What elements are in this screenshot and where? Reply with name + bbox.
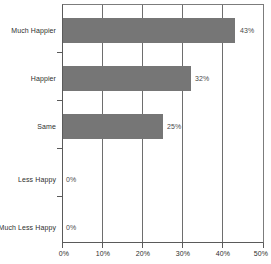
x-axis-tick-label-50: 50%	[254, 250, 268, 257]
x-axis-ticks	[62, 243, 265, 249]
value-label-much-happier: 43%	[240, 27, 254, 34]
x-axis-tick-40	[222, 243, 223, 248]
x-axis-tick-label-20: 20%	[136, 250, 150, 257]
y-axis-label-much-less-happy: Much Less Happy	[0, 224, 56, 231]
x-axis-tick-30	[182, 243, 183, 248]
x-axis-tick-labels: 0% 10% 20% 30% 40% 50%	[0, 250, 271, 262]
y-axis-category-labels: Much Happier Happier Same Less Happy Muc…	[0, 0, 58, 264]
y-axis-label-much-happier: Much Happier	[11, 27, 56, 34]
value-label-happier: 32%	[195, 75, 209, 82]
x-axis-tick-0	[62, 243, 63, 248]
x-axis-tick-label-40: 40%	[216, 250, 230, 257]
value-label-much-less-happy: 0%	[66, 224, 76, 231]
y-axis-label-same: Same	[37, 123, 56, 130]
value-label-less-happy: 0%	[66, 176, 76, 183]
x-axis-tick-label-30: 30%	[176, 250, 190, 257]
bar-same[interactable]	[63, 114, 163, 139]
x-axis-tick-50	[263, 243, 264, 248]
value-label-same: 25%	[167, 123, 181, 130]
plot-area	[62, 4, 264, 243]
bar-much-happier[interactable]	[63, 18, 235, 43]
y-axis-label-less-happy: Less Happy	[18, 176, 56, 183]
bars	[63, 5, 263, 242]
x-axis-tick-label-10: 10%	[96, 250, 110, 257]
y-axis-label-happier: Happier	[31, 75, 56, 82]
x-axis-tick-20	[142, 243, 143, 248]
bar-happier[interactable]	[63, 66, 191, 91]
x-axis-tick-10	[102, 243, 103, 248]
bar-chart: Much Happier Happier Same Less Happy Muc…	[0, 0, 271, 264]
x-axis-tick-label-0: 0%	[59, 250, 69, 257]
